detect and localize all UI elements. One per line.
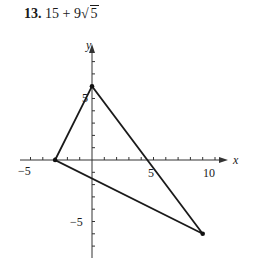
- vertex-point: [53, 158, 58, 163]
- coordinate-plot: x y −5 5 10 5 −5: [0, 0, 255, 272]
- vertex-point: [90, 84, 95, 89]
- y-tick-label-5: 5: [82, 91, 88, 105]
- vertex-point: [200, 232, 205, 237]
- x-axis-label: x: [232, 153, 239, 167]
- x-tick-label-neg5: −5: [18, 164, 31, 178]
- x-axis-arrow-icon: [219, 157, 228, 163]
- x-tick-label-5: 5: [148, 166, 154, 180]
- y-axis-label: y: [85, 38, 92, 52]
- x-tick-label-10: 10: [203, 166, 215, 180]
- y-tick-label-neg5: −5: [70, 215, 83, 229]
